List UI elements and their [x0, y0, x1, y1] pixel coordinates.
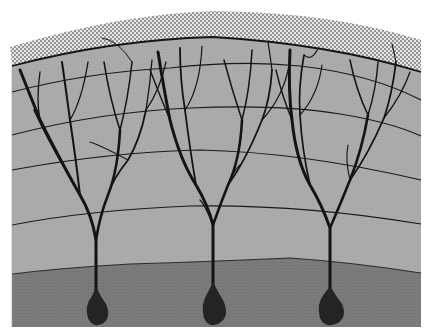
neuron-illustration: [0, 0, 427, 333]
